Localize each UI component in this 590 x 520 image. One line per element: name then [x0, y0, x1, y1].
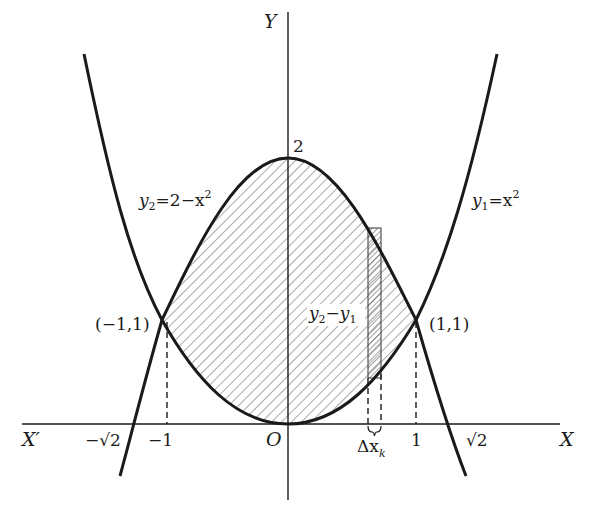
strip-brace: [368, 426, 381, 436]
tick-label-neg-sqrt2: −√2: [85, 430, 121, 450]
x-axis-label: X: [558, 428, 575, 450]
tick-label-sqrt2: √2: [466, 430, 488, 450]
point-label-right-intersection: (1,1): [429, 314, 469, 334]
strip-height-label: y2−y1: [308, 303, 356, 326]
tick-label-one: 1: [411, 430, 422, 450]
tick-label-two: 2: [293, 136, 304, 156]
curve-label-y2: y2=2−x2: [138, 188, 212, 213]
curve-label-y1: y1=x2: [471, 188, 519, 213]
y-axis-label: Y: [264, 10, 279, 32]
origin-label: O: [266, 428, 282, 450]
strip-width-label: Δxk: [357, 436, 386, 460]
diagram-canvas: Y X X′ O 2 −√2 −1 1 √2 (−1,1) (1,1) y2=2…: [0, 0, 590, 520]
tick-label-neg-one: −1: [148, 430, 173, 450]
area-between-curves-figure: Y X X′ O 2 −√2 −1 1 √2 (−1,1) (1,1) y2=2…: [0, 0, 590, 520]
x-neg-axis-label: X′: [20, 428, 41, 450]
point-label-left-intersection: (−1,1): [95, 314, 150, 334]
